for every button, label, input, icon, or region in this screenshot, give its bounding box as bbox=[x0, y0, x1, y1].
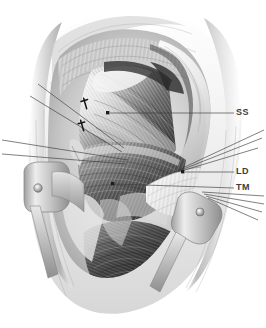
label-tm: TM bbox=[236, 183, 250, 192]
illustration-canvas: SS LD TM bbox=[0, 0, 266, 328]
label-ss: SS bbox=[236, 108, 249, 117]
label-ld: LD bbox=[236, 167, 249, 176]
anatomical-illustration bbox=[0, 0, 266, 328]
dot-ld bbox=[181, 170, 184, 173]
dot-ss bbox=[106, 111, 109, 114]
dot-tm bbox=[111, 182, 114, 185]
